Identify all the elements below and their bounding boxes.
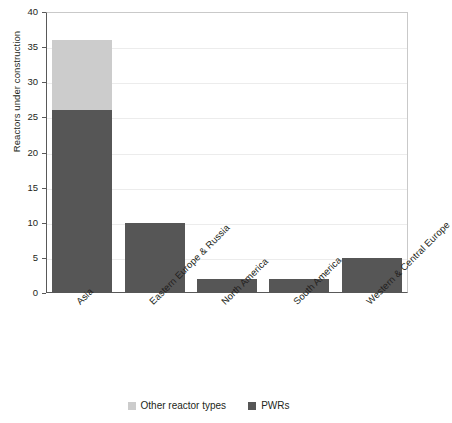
- y-axis-tick-label: 5: [0, 253, 38, 263]
- legend-label: Other reactor types: [141, 400, 227, 411]
- legend-label: PWRs: [261, 400, 289, 411]
- legend-swatch-icon: [128, 402, 136, 410]
- y-axis-tick-label: 10: [0, 218, 38, 228]
- y-axis-tick-label: 40: [0, 7, 38, 17]
- y-axis-tick: [42, 12, 46, 13]
- y-axis-tick-label: 0: [0, 288, 38, 298]
- y-axis-tick-label: 35: [0, 42, 38, 52]
- y-axis-tick: [42, 258, 46, 259]
- y-axis-tick: [42, 117, 46, 118]
- y-axis-title: Reactors under construction: [11, 0, 22, 202]
- y-axis-tick: [42, 223, 46, 224]
- chart-legend: Other reactor typesPWRs: [0, 400, 417, 411]
- y-axis-tick: [42, 82, 46, 83]
- y-axis-tick: [42, 153, 46, 154]
- y-axis-tick: [42, 293, 46, 294]
- y-axis-tick-label: 30: [0, 77, 38, 87]
- legend-item[interactable]: Other reactor types: [128, 400, 227, 411]
- y-axis-tick-label: 15: [0, 183, 38, 193]
- bar-western-central-europe[interactable]: [342, 12, 402, 293]
- bar-segment-pwrs[interactable]: [52, 110, 112, 293]
- y-axis-tick-label: 25: [0, 112, 38, 122]
- y-axis-tick: [42, 188, 46, 189]
- bar-asia[interactable]: [52, 12, 112, 293]
- y-axis-tick: [42, 47, 46, 48]
- legend-swatch-icon: [248, 402, 256, 410]
- bar-eastern-europe-russia[interactable]: [125, 12, 185, 293]
- bar-segment-other-reactor-types[interactable]: [52, 40, 112, 110]
- y-axis-tick-label: 20: [0, 148, 38, 158]
- bar-south-america[interactable]: [269, 12, 329, 293]
- legend-item[interactable]: PWRs: [248, 400, 289, 411]
